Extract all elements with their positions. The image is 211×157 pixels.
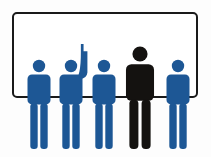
figure-leg [105, 103, 112, 149]
figure-leg [179, 103, 186, 149]
figure-torso [28, 74, 51, 104]
figure-head [172, 60, 184, 72]
figure-leg [129, 100, 138, 149]
figure-head [65, 60, 77, 72]
figure-head [33, 60, 45, 72]
pictogram-canvas: Five stylised standing human figures; fo… [0, 0, 211, 157]
figure-leg [40, 103, 47, 149]
figure-torso [93, 74, 116, 104]
figure-leg [95, 103, 102, 149]
figure-torso [126, 64, 154, 101]
figure-leg [72, 103, 79, 149]
figure-torso [167, 74, 190, 104]
figure-head [132, 46, 147, 61]
figure-leg [62, 103, 69, 149]
figure-leg [169, 103, 176, 149]
figure-leg [142, 100, 151, 149]
pictogram-artwork [0, 0, 211, 157]
figure-head [98, 60, 110, 72]
figure-leg [30, 103, 37, 149]
figure-torso [60, 74, 83, 104]
